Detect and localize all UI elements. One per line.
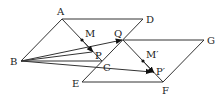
label-Q: Q: [114, 28, 122, 39]
label-P-prime: P′: [156, 66, 166, 77]
segment-GF: [163, 40, 204, 82]
label-E: E: [72, 78, 79, 89]
label-M-prime: M′: [146, 49, 159, 60]
label-B: B: [10, 56, 17, 67]
label-M: M: [85, 28, 95, 39]
label-G: G: [207, 35, 215, 46]
point-M: [80, 38, 83, 41]
label-D: D: [146, 14, 154, 25]
label-F: F: [162, 85, 169, 96]
vector-BQ: [21, 40, 122, 61]
label-C: C: [103, 62, 111, 73]
point-M-prime: [141, 59, 144, 62]
label-P: P: [95, 50, 102, 61]
segment-AB: [21, 19, 62, 61]
label-A: A: [56, 6, 65, 17]
geometry-diagram: A D B C Q G E F M P M′ P′: [0, 0, 222, 98]
vector-BP-prime: [21, 61, 152, 72]
